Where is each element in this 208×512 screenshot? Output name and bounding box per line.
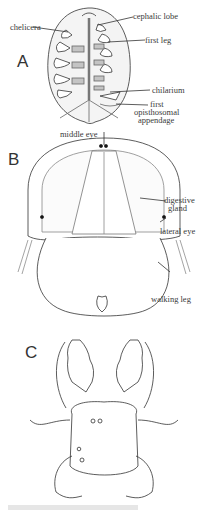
panel-letter-b: B (8, 150, 19, 170)
panel-c-drawing (30, 340, 178, 498)
label-chelicera: chelicera (10, 23, 41, 31)
panel-letter-c: C (25, 343, 37, 363)
label-gland: gland (168, 204, 187, 212)
panel-b-larva-drawing (18, 132, 190, 316)
label-cephalic-lobe: cephalic lobe (133, 12, 178, 20)
panel-letter-a: A (17, 52, 28, 72)
label-first-leg: first leg (145, 36, 171, 44)
label-walking-leg: walking leg (151, 295, 191, 303)
label-lateral-eye: lateral eye (160, 227, 195, 235)
label-chilarium: chilarium (152, 86, 185, 94)
label-first-opisthosomal-3: appendage (138, 116, 174, 124)
panel-a-embryo-drawing (33, 8, 150, 124)
caption-truncated (8, 505, 138, 510)
figure-drawings (0, 0, 208, 512)
label-middle-eye: middle eye (60, 130, 98, 138)
